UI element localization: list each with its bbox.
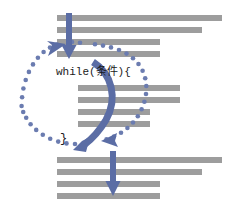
code-bar (78, 121, 150, 127)
code-bar (57, 15, 222, 21)
loop-close-brace: } (60, 132, 67, 146)
code-loop-body (78, 85, 180, 127)
code-bar (57, 27, 202, 33)
flow-diagram-svg: while(条件){ } (0, 0, 233, 206)
code-bar (57, 157, 222, 163)
code-bar (78, 97, 180, 103)
code-bar (78, 109, 150, 115)
code-before-loop (57, 15, 222, 57)
loop-back-arrowhead-bottom (101, 133, 118, 147)
loop-header-label: while(条件){ (56, 64, 131, 78)
code-bar (57, 193, 160, 199)
while-loop-diagram: while(条件){ } (0, 0, 233, 206)
code-after-loop (57, 157, 222, 199)
code-bar (57, 169, 202, 175)
code-bar (78, 85, 180, 91)
